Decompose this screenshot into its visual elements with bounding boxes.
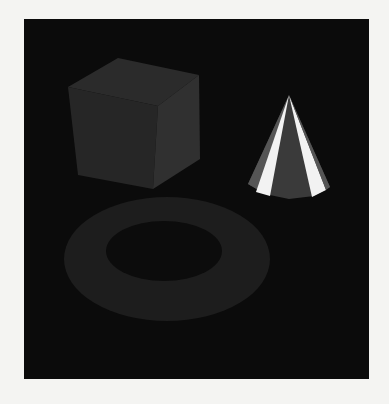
torus-shape [64,197,270,321]
render-viewport [24,19,369,379]
scene-canvas [24,19,369,379]
cube-shape [68,58,200,189]
cone-shape [248,95,330,199]
